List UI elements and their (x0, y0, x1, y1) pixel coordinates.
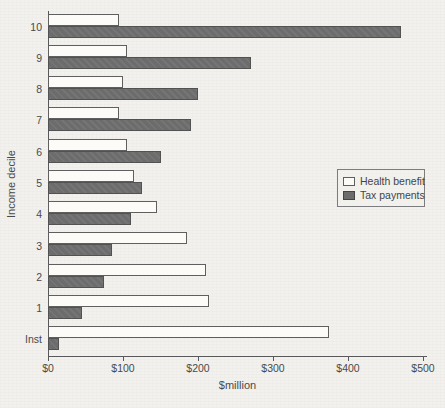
bar-health-benefit-5 (48, 170, 134, 182)
category-label-10: 10 (8, 21, 42, 34)
x-tick-400 (348, 356, 349, 361)
bar-chart-figure: Income decile $million Health benefit Ta… (0, 0, 445, 408)
bar-tax-payments-8 (48, 88, 198, 100)
bar-tax-payments-2 (48, 276, 104, 288)
legend-item-tax-payments: Tax payments (343, 188, 419, 202)
bar-health-benefit-9 (48, 45, 127, 57)
x-tick-label-100: $100 (101, 362, 145, 374)
bar-health-benefit-4 (48, 201, 157, 213)
bar-tax-payments-3 (48, 244, 112, 256)
legend-label-health-benefit: Health benefit (360, 175, 425, 187)
category-label-6: 6 (8, 146, 42, 159)
x-tick-label-0: $0 (26, 362, 70, 374)
category-label-4: 4 (8, 208, 42, 221)
x-tick-500 (423, 356, 424, 361)
x-axis-title: $million (48, 379, 427, 391)
category-label-inst: Inst (8, 333, 42, 346)
x-tick-300 (273, 356, 274, 361)
bar-health-benefit-inst (48, 326, 329, 338)
category-label-1: 1 (8, 302, 42, 315)
legend-swatch-tax-payments (343, 191, 355, 200)
legend-label-tax-payments: Tax payments (360, 189, 425, 201)
category-label-9: 9 (8, 52, 42, 65)
category-label-5: 5 (8, 177, 42, 190)
x-tick-200 (198, 356, 199, 361)
x-tick-0 (48, 356, 49, 361)
bar-tax-payments-7 (48, 119, 191, 131)
bar-tax-payments-4 (48, 213, 131, 225)
bar-health-benefit-7 (48, 107, 119, 119)
category-label-2: 2 (8, 271, 42, 284)
legend-swatch-health-benefit (343, 177, 355, 186)
bar-health-benefit-2 (48, 264, 206, 276)
bar-tax-payments-5 (48, 182, 142, 194)
x-axis-line (48, 356, 427, 357)
category-label-8: 8 (8, 83, 42, 96)
category-label-7: 7 (8, 114, 42, 127)
x-tick-label-500: $500 (401, 362, 445, 374)
x-tick-label-400: $400 (326, 362, 370, 374)
x-tick-label-300: $300 (251, 362, 295, 374)
bar-health-benefit-6 (48, 139, 127, 151)
bar-health-benefit-3 (48, 232, 187, 244)
x-tick-100 (123, 356, 124, 361)
bar-health-benefit-1 (48, 295, 209, 307)
bar-tax-payments-6 (48, 151, 161, 163)
bar-health-benefit-10 (48, 14, 119, 26)
bar-health-benefit-8 (48, 76, 123, 88)
bar-tax-payments-1 (48, 307, 82, 319)
legend-item-health-benefit: Health benefit (343, 174, 419, 188)
category-label-3: 3 (8, 240, 42, 253)
bar-tax-payments-9 (48, 57, 251, 69)
legend: Health benefit Tax payments (337, 169, 425, 207)
bar-tax-payments-inst (48, 338, 59, 350)
bar-tax-payments-10 (48, 26, 401, 38)
x-tick-label-200: $200 (176, 362, 220, 374)
